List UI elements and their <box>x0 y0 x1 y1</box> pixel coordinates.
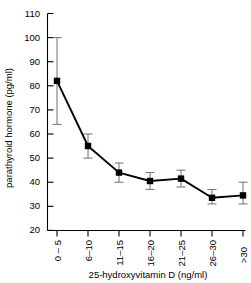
data-point <box>116 169 122 175</box>
y-tick-label: 20 <box>29 224 40 235</box>
x-tick-label: 6–10 <box>83 240 94 261</box>
y-tick-label: 110 <box>25 8 40 19</box>
x-tick-label: 11–15 <box>114 240 125 266</box>
data-point <box>54 78 60 84</box>
y-tick-label: 100 <box>24 32 40 43</box>
x-tick-label: >30 <box>238 247 249 263</box>
data-point <box>240 192 246 198</box>
parathyroid-vs-vitamin-d-line-chart: parathyroid hormone (pg/ml) 110 100 90 8… <box>0 0 251 283</box>
y-tick-label: 80 <box>29 80 40 91</box>
data-markers <box>54 78 246 201</box>
y-tick-labels: 110 100 90 80 70 60 50 40 30 20 <box>24 8 40 235</box>
x-axis-title: 25-hydroxyvitamin D (ng/ml) <box>89 269 208 280</box>
chart-figure: parathyroid hormone (pg/ml) 110 100 90 8… <box>0 0 251 283</box>
x-tick-label: 16–20 <box>145 240 156 266</box>
x-tick-label: 0 – 5 <box>52 240 63 261</box>
y-axis-title: parathyroid hormone (pg/ml) <box>3 68 14 188</box>
data-point <box>178 175 184 181</box>
data-point <box>85 143 91 149</box>
y-tick-label: 90 <box>29 56 40 67</box>
x-tick-labels: 0 – 5 6–10 11–15 16–20 21–25 26–30 >30 <box>52 240 249 266</box>
y-tick-marks <box>48 14 54 231</box>
y-tick-label: 30 <box>29 200 40 211</box>
data-point <box>209 195 215 201</box>
x-tick-label: 21–25 <box>176 240 187 266</box>
y-tick-label: 70 <box>29 104 40 115</box>
x-tick-label: 26–30 <box>207 240 218 266</box>
data-point <box>147 178 153 184</box>
y-tick-label: 50 <box>29 152 40 163</box>
y-tick-label: 60 <box>29 128 40 139</box>
y-tick-label: 40 <box>29 176 40 187</box>
x-tick-marks <box>57 231 243 237</box>
